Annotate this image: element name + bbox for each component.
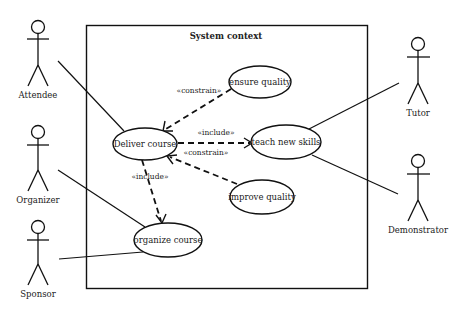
use-case-label: Deliver course (114, 139, 177, 149)
actor-label: Organizer (16, 195, 60, 205)
stick-figure-icon (27, 126, 49, 192)
use-case-organize-course[interactable]: organize course (134, 223, 203, 257)
stick-figure-icon (27, 221, 49, 286)
actor-label: Sponsor (20, 289, 56, 299)
actor-label: Tutor (406, 108, 431, 118)
use-case-teach-new-skills[interactable]: teach new skills (251, 125, 321, 159)
stick-figure-icon (27, 21, 49, 87)
actor-demonstrator[interactable]: Demonstrator (388, 155, 449, 236)
use-case-label: improve quality (228, 192, 296, 202)
use-case-label: ensure quality (229, 77, 291, 87)
stereotype-label-include-right: «include» (197, 128, 234, 137)
actor-organizer[interactable]: Organizer (16, 126, 60, 206)
use-case-label: organize course (134, 235, 203, 245)
stick-figure-icon (407, 38, 430, 105)
use-case-label: teach new skills (252, 137, 321, 147)
use-case-deliver-course[interactable]: Deliver course (113, 128, 177, 160)
stereotype-label-include-down: «include» (131, 172, 168, 181)
actor-label: Attendee (18, 90, 58, 100)
system-title: System context (190, 31, 263, 41)
use-case-improve-quality[interactable]: improve quality (228, 180, 296, 214)
actor-attendee[interactable]: Attendee (18, 21, 58, 101)
actor-label: Demonstrator (388, 225, 449, 235)
use-case-diagram: System context «constrain» «include» «co… (0, 0, 464, 310)
stick-figure-icon (407, 155, 430, 222)
use-case-ensure-quality[interactable]: ensure quality (229, 66, 291, 98)
stereotype-label-constrain-bottom: «constrain» (184, 148, 229, 157)
actor-tutor[interactable]: Tutor (406, 38, 431, 119)
actor-sponsor[interactable]: Sponsor (20, 221, 56, 300)
stereotype-label-constrain-top: «constrain» (177, 86, 222, 95)
